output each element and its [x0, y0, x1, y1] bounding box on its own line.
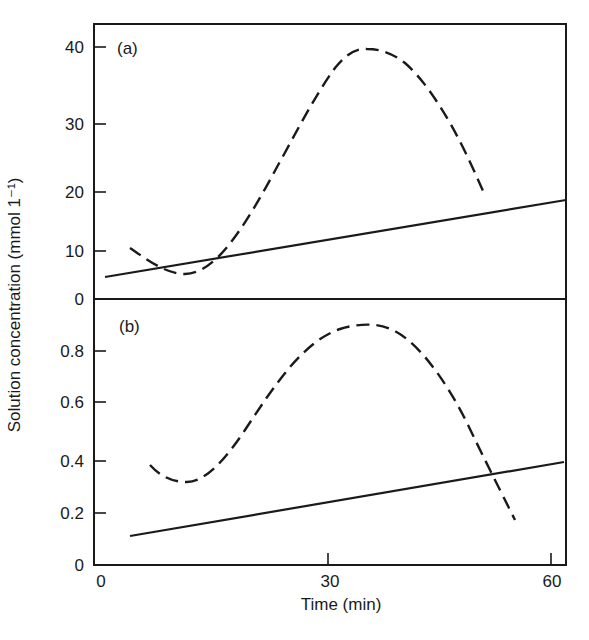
bottom-y-tick-0: 0 — [75, 556, 84, 575]
bottom-y-tick-labels: 0.8 0.6 0.4 0.2 0 — [60, 342, 84, 575]
panel-b-series — [130, 325, 564, 536]
panel-a-dashed-curve — [130, 49, 483, 274]
figure: 40 30 20 10 0 0.8 0.6 0.4 0.2 0 0 30 60 … — [0, 0, 589, 640]
bottom-y-tick-0.4: 0.4 — [60, 452, 84, 471]
x-ticks — [328, 553, 551, 565]
bottom-y-tick-0.6: 0.6 — [60, 393, 84, 412]
y-axis-title: Solution concentration (mmol 1⁻¹) — [5, 178, 24, 433]
top-y-tick-0: 0 — [75, 290, 84, 309]
panel-label-a: (a) — [117, 39, 138, 58]
top-y-tick-40: 40 — [65, 38, 84, 57]
panel-a-series — [105, 49, 566, 277]
bottom-y-ticks — [94, 351, 106, 513]
top-y-tick-20: 20 — [65, 183, 84, 202]
x-axis-title: Time (min) — [301, 595, 382, 614]
top-y-ticks — [94, 47, 106, 251]
bottom-y-tick-0.2: 0.2 — [60, 504, 84, 523]
panel-a-solid-line — [105, 200, 566, 277]
x-tick-0: 0 — [96, 572, 105, 591]
top-y-tick-10: 10 — [65, 242, 84, 261]
x-tick-30: 30 — [321, 572, 340, 591]
top-y-tick-labels: 40 30 20 10 0 — [65, 38, 84, 309]
x-tick-labels: 0 30 60 — [96, 572, 561, 591]
panel-b-solid-line — [130, 462, 564, 536]
axes-frame — [94, 24, 566, 565]
panel-label-b: (b) — [119, 317, 140, 336]
x-tick-60: 60 — [543, 572, 562, 591]
bottom-y-tick-0.8: 0.8 — [60, 342, 84, 361]
plot-border — [94, 24, 566, 565]
top-y-tick-30: 30 — [65, 115, 84, 134]
panel-b-dashed-curve — [150, 325, 515, 520]
